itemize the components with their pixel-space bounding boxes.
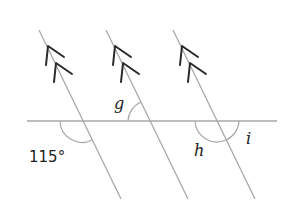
angle-label-h: h	[194, 141, 204, 160]
angle-arc-115	[60, 121, 92, 142]
angle-arc-g	[128, 102, 141, 121]
parallel-line-2	[106, 30, 188, 199]
angle-arc-i	[226, 121, 239, 140]
parallel-line-1	[39, 30, 121, 199]
angle-arc-h	[195, 121, 226, 142]
angle-label-i: i	[246, 129, 251, 148]
parallel-line-3	[173, 30, 255, 199]
parallel-lines-diagram: 115° g h i	[0, 0, 285, 220]
angle-label-g: g	[114, 94, 124, 113]
angle-label-115: 115°	[29, 148, 65, 166]
